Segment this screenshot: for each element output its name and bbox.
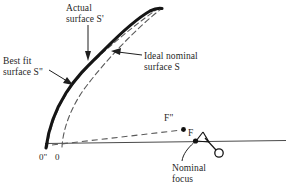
label-origin-nominal: 0 [55, 152, 60, 162]
label-nominal-focus: Nominal focus [172, 163, 206, 184]
optical-axis-line [45, 141, 286, 144]
label-origin-best-fit: 0" [39, 152, 47, 162]
label-best-fit-surface: Best fit surface S" [3, 56, 43, 77]
label-focus-best-fit: F" [164, 113, 173, 124]
figure-canvas: Actual surface S' Best fit surface S" Id… [0, 0, 287, 189]
label-focus-nominal: F [188, 128, 193, 139]
deviated-focus-open-circle [215, 149, 223, 157]
arrowhead-ideal-nominal-surface [111, 48, 121, 55]
label-ideal-nominal-surface: Ideal nominal surface S [144, 51, 198, 72]
arrowhead-actual-surface [85, 51, 91, 61]
leader-line-best-fit-surface [49, 70, 67, 81]
leader-line-nominal-focus [182, 143, 194, 161]
arrowhead-best-fit-surface [63, 77, 73, 85]
actual-surface-curve [46, 8, 162, 148]
best-fit-focus-dot [181, 127, 186, 132]
nominal-focus-dot [193, 138, 198, 143]
focus-marker-edge-to-circle [205, 138, 216, 150]
label-actual-surface: Actual surface S' [66, 3, 104, 24]
leader-line-ideal-nominal-surface [118, 52, 142, 55]
